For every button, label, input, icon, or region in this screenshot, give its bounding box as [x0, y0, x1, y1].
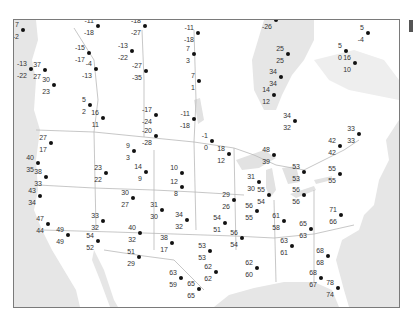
station-high-temp: 53	[198, 242, 206, 249]
station-low-temp: 33	[34, 180, 42, 187]
lake-superior	[236, 150, 276, 170]
station-dot	[130, 49, 134, 53]
station-low-temp: 55	[245, 214, 253, 221]
station-dot	[52, 83, 56, 87]
station-dot	[138, 231, 142, 235]
station-high-temp: 5	[338, 42, 342, 49]
station-high-temp: 47	[36, 215, 44, 222]
station-low-temp: 32	[175, 223, 183, 230]
station-high-temp: 9	[126, 142, 130, 149]
station-high-temp: 34	[175, 211, 183, 218]
station-dot	[49, 141, 53, 145]
station-low-temp: 52	[86, 244, 94, 251]
station-dot	[154, 134, 158, 138]
station-dot	[353, 61, 357, 65]
station-dot	[104, 171, 108, 175]
station-dot	[160, 208, 164, 212]
station-high-temp: -11	[84, 19, 94, 24]
station-dot	[197, 79, 201, 83]
station-dot	[180, 185, 184, 189]
station-low-temp: -22	[118, 54, 128, 61]
station-high-temp: 5	[360, 24, 364, 31]
station-high-temp: 40	[128, 224, 136, 231]
station-high-temp: -27	[132, 62, 142, 69]
station-low-temp: -35	[132, 74, 142, 81]
station-low-temp: 12	[217, 157, 225, 164]
station-low-temp: 44	[36, 227, 44, 234]
station-high-temp: 55	[257, 186, 265, 193]
station-low-temp: -28	[142, 139, 152, 146]
hudson-bay	[252, 20, 314, 110]
station-high-temp: 16	[343, 54, 351, 61]
station-dot	[96, 24, 100, 28]
station-high-temp: -13	[17, 60, 27, 67]
gulf-of-california	[92, 250, 118, 307]
station-dot	[66, 233, 70, 237]
station-dot	[196, 31, 200, 35]
station-high-temp: -4	[86, 60, 92, 67]
station-dot	[344, 49, 348, 53]
station-dot	[336, 286, 340, 290]
station-dot	[232, 198, 236, 202]
station-dot	[101, 219, 105, 223]
station-high-temp: 78	[326, 279, 334, 286]
station-dot	[185, 218, 189, 222]
station-high-temp: 38	[34, 168, 42, 175]
station-dot	[179, 276, 183, 280]
station-high-temp: 34	[283, 112, 291, 119]
station-high-temp: 55	[328, 165, 336, 172]
station-low-temp: -2	[13, 33, 19, 40]
station-dot	[267, 193, 271, 197]
station-low-temp: 9	[138, 175, 142, 182]
station-high-temp: 16	[91, 109, 99, 116]
station-low-temp: 39	[262, 158, 270, 165]
station-high-temp: 38	[160, 234, 168, 241]
station-dot	[255, 266, 259, 270]
station-dot	[290, 244, 294, 248]
station-dot	[144, 69, 148, 73]
station-low-temp: 3	[186, 57, 190, 64]
station-low-temp: 3	[126, 154, 130, 161]
station-high-temp: 71	[329, 206, 337, 213]
station-high-temp: 31	[247, 173, 255, 180]
station-low-temp: -24	[142, 118, 152, 125]
station-low-temp: 17	[160, 246, 168, 253]
station-dot	[366, 31, 370, 35]
station-high-temp: 54	[86, 232, 94, 239]
station-dot	[272, 153, 276, 157]
station-high-temp: 34	[269, 68, 277, 75]
station-low-temp: 1	[191, 84, 195, 91]
station-high-temp: 31	[150, 201, 158, 208]
station-dot	[326, 254, 330, 258]
station-low-temp: 65	[187, 292, 195, 299]
corner-mark	[409, 20, 413, 32]
station-low-temp: 12	[262, 98, 270, 105]
station-high-temp: 49	[56, 226, 64, 233]
station-dot	[88, 103, 92, 107]
station-high-temp: 18	[217, 145, 225, 152]
station-low-temp: 26	[222, 203, 230, 210]
station-high-temp: 48	[262, 146, 270, 153]
station-low-temp: 10	[343, 66, 351, 73]
station-low-temp: 17	[39, 146, 47, 153]
station-dot	[309, 227, 313, 231]
station-low-temp: 63	[299, 232, 307, 239]
station-low-temp: 22	[94, 176, 102, 183]
station-low-temp: 27	[33, 73, 41, 80]
station-high-temp: 14	[262, 86, 270, 93]
station-dot	[338, 144, 342, 148]
station-low-temp: 74	[326, 291, 334, 298]
station-low-temp: 60	[245, 271, 253, 278]
gulf-of-mexico	[214, 282, 339, 307]
station-dot	[132, 149, 136, 153]
station-high-temp: 65	[299, 220, 307, 227]
station-high-temp: 63	[169, 269, 177, 276]
station-low-temp: 32	[91, 224, 99, 231]
station-high-temp: 23	[94, 164, 102, 171]
station-low-temp: -4	[358, 36, 364, 43]
station-high-temp: 43	[28, 187, 36, 194]
station-low-temp: 53	[198, 254, 206, 261]
station-high-temp: 7	[186, 45, 190, 52]
station-high-temp: -11	[180, 110, 190, 117]
station-dot	[286, 52, 290, 56]
